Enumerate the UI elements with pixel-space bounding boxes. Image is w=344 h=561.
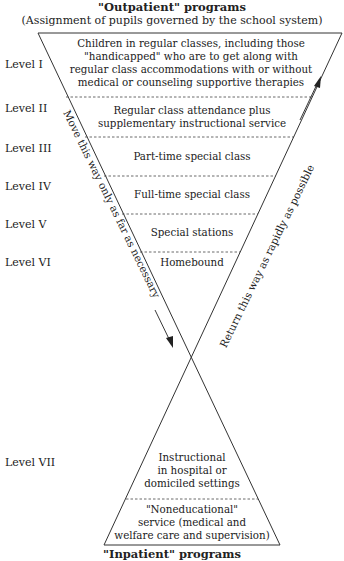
level-1-description: Children in regular classes, including t…	[50, 37, 332, 89]
level-label-5: Level V	[5, 218, 47, 231]
text-line: "Noneducational"	[104, 503, 280, 516]
text-line: Special stations	[130, 226, 254, 239]
level-label-2: Level II	[5, 102, 47, 115]
level-3-description: Part-time special class	[100, 150, 284, 163]
level-2-description: Regular class attendance plus supplement…	[80, 104, 304, 130]
text-line: service (medical and	[104, 516, 280, 529]
text-line: Children in regular classes, including t…	[50, 37, 332, 50]
text-line: Homebound	[145, 256, 239, 269]
text-line: in hospital or	[130, 464, 254, 477]
level-label-7: Level VII	[5, 456, 55, 469]
text-line: supplementary instructional service	[80, 117, 304, 130]
level-6-description: Homebound	[145, 256, 239, 269]
noneducational-description: "Noneducational" service (medical and we…	[104, 503, 280, 542]
level-4-description: Full-time special class	[110, 188, 274, 201]
text-line: Part-time special class	[100, 150, 284, 163]
text-line: Regular class attendance plus	[80, 104, 304, 117]
level-7-description: Instructional in hospital or domiciled s…	[130, 451, 254, 490]
text-line: domiciled settings	[130, 477, 254, 490]
text-line: welfare care and supervision)	[104, 529, 280, 542]
level-label-3: Level III	[5, 142, 52, 155]
level-label-6: Level VI	[5, 256, 51, 269]
footer-title: "Inpatient" programs	[0, 547, 344, 561]
text-line: "handicapped" who are to get along with	[50, 50, 332, 63]
text-line: Full-time special class	[110, 188, 274, 201]
text-line: Instructional	[130, 451, 254, 464]
text-line: regular class accommodations with or wit…	[50, 63, 332, 76]
text-line: medical or counseling supportive therapi…	[50, 76, 332, 89]
level-5-description: Special stations	[130, 226, 254, 239]
level-label-1: Level I	[5, 58, 43, 71]
level-label-4: Level IV	[5, 180, 51, 193]
